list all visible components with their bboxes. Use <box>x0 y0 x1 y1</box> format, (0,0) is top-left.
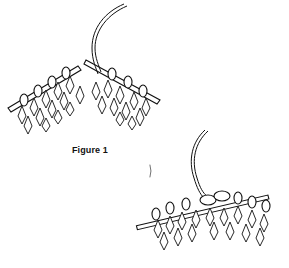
knitting-figure-2-drawing <box>136 130 270 250</box>
right-needle-loops <box>108 68 147 97</box>
figure-caption: Figure 1 <box>72 145 108 155</box>
working-yarn <box>92 4 124 74</box>
illustration-canvas: Figure 1 <box>0 0 289 268</box>
knitting-figure-1-drawing <box>0 0 289 268</box>
